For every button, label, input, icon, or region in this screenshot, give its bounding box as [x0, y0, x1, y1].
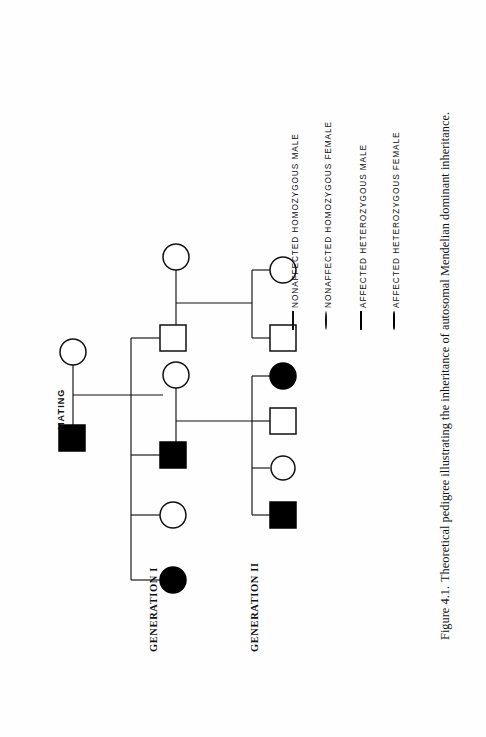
symbol-affected-female-III-1[interactable] [270, 363, 296, 389]
legend-label-nonaffected-homozygous-female: NONAFFECTED HOMOZYGOUS FEMALE [323, 121, 333, 308]
legend-label-affected-heterozygous-male: AFFECTED HETEROZYGOUS MALE [358, 144, 368, 308]
figure-number: Figure 4.1. [438, 586, 452, 640]
legend-label-nonaffected-homozygous-male: NONAFFECTED HOMOZYGOUS MALE [290, 133, 300, 308]
generation-2-label: GENERATION II [249, 562, 260, 652]
symbol-nonaffected-female-III-3[interactable] [271, 456, 295, 480]
legend-entry-nonaffected-homozygous-female: NONAFFECTED HOMOZYGOUS FEMALE [323, 60, 355, 330]
generation-1-label: GENERATION I [148, 567, 159, 652]
legend: NONAFFECTED HOMOZYGOUS MALE NONAFFECTED … [290, 60, 420, 330]
open-circle-icon [325, 312, 327, 330]
symbol-affected-female-II-1[interactable] [160, 567, 186, 593]
filled-circle-icon [393, 312, 395, 330]
symbol-nonaffected-male-III-2[interactable] [270, 408, 296, 434]
symbol-nonaffected-female-II-4-spouse[interactable] [163, 244, 189, 270]
legend-entry-nonaffected-homozygous-male: NONAFFECTED HOMOZYGOUS MALE [290, 60, 322, 330]
filled-square-icon [360, 312, 362, 330]
pedigree-connectors [73, 270, 270, 580]
symbol-nonaffected-female-II-3-spouse[interactable] [163, 362, 189, 388]
symbol-nonaffected-female-I-2[interactable] [60, 339, 86, 365]
figure-page: MATING GENERATION I GENERATION II NONAFF… [0, 0, 486, 737]
figure-caption-text: Theoretical pedigree illustrating the in… [438, 112, 452, 582]
figure-caption: Figure 4.1.Theoretical pedigree illustra… [438, 80, 453, 640]
legend-entry-affected-heterozygous-male: AFFECTED HETEROZYGOUS MALE [358, 60, 390, 330]
legend-label-affected-heterozygous-female: AFFECTED HETEROZYGOUS FEMALE [391, 132, 401, 308]
generation-2-symbols [160, 244, 189, 593]
symbol-affected-male-II-3[interactable] [160, 442, 186, 468]
symbol-nonaffected-female-II-2[interactable] [160, 502, 186, 528]
symbol-affected-male-III-4[interactable] [270, 502, 296, 528]
mating-label: MATING [56, 389, 66, 430]
symbol-nonaffected-male-II-4[interactable] [160, 325, 186, 351]
legend-entry-affected-heterozygous-female: AFFECTED HETEROZYGOUS FEMALE [391, 60, 423, 330]
open-square-icon [292, 312, 294, 330]
